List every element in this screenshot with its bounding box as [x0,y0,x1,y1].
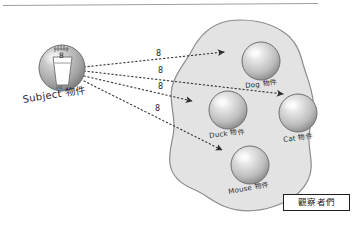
diagram-canvas: 8 8 8 8 8 int Subject 物件 Dog 物件 Duck 物件 … [0,0,355,234]
observers-group-box: 觀察者們 [283,194,350,211]
duck-sphere [209,91,247,129]
subject-object[interactable] [39,45,85,91]
top-divider [3,4,318,6]
observer-duck[interactable] [209,91,247,129]
dog-sphere [242,42,280,80]
mouse-sphere [231,146,269,184]
observer-cat[interactable] [279,94,317,132]
cat-sphere [279,94,317,132]
observers-group-label: 觀察者們 [298,198,336,207]
dog-highlight [245,47,263,60]
cat-highlight [282,99,300,112]
mouse-highlight [234,151,252,164]
observer-dog[interactable] [242,42,280,80]
duck-highlight [212,96,230,109]
subject-field-shape [53,57,72,85]
observer-mouse[interactable] [231,146,269,184]
